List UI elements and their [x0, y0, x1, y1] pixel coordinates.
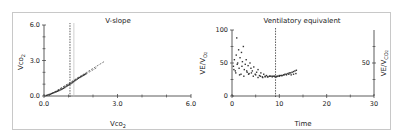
data-point	[56, 91, 57, 92]
data-point	[272, 76, 273, 77]
data-point	[80, 76, 81, 77]
x-tick-label: 30	[370, 100, 378, 108]
data-point	[294, 70, 295, 71]
data-point	[49, 94, 50, 95]
ventilatory-equivalent-chart: Ventilatory equivalent 010203005010050 T…	[199, 17, 389, 128]
data-point	[48, 94, 49, 95]
data-point	[266, 75, 267, 76]
data-point	[53, 92, 54, 93]
data-point	[262, 77, 263, 78]
data-point	[256, 72, 257, 73]
data-point	[59, 89, 60, 90]
ventilatory-equivalent-axes: 010203005010050	[216, 26, 379, 108]
data-point	[235, 70, 236, 71]
data-point	[238, 49, 239, 50]
data-point	[253, 66, 254, 67]
data-point	[248, 74, 249, 75]
data-point	[243, 46, 244, 47]
data-point	[239, 57, 240, 58]
data-point	[296, 70, 297, 71]
v-slope-axes: 0.03.06.00.03.06.0	[30, 21, 197, 108]
data-point	[249, 62, 250, 63]
data-point	[238, 68, 239, 69]
data-point	[60, 89, 61, 90]
data-point	[291, 72, 292, 73]
data-point	[47, 94, 48, 95]
data-point	[63, 88, 64, 89]
data-point	[252, 70, 253, 71]
data-point	[85, 73, 86, 74]
data-point	[288, 74, 289, 75]
data-point	[73, 81, 74, 82]
y-tick-label: 100	[216, 26, 228, 34]
data-point	[74, 80, 75, 81]
ventilatory-equivalent-left-y-axis-label: VE/VO2	[199, 51, 208, 74]
ventilatory-equivalent-title: Ventilatory equivalent	[263, 17, 340, 25]
data-point	[79, 77, 80, 78]
data-point	[255, 74, 256, 75]
data-point	[253, 76, 254, 77]
data-point	[71, 82, 72, 83]
data-point	[246, 59, 247, 60]
data-point	[67, 85, 68, 86]
data-point	[290, 72, 291, 73]
data-point	[257, 77, 258, 78]
v-slope-x-axis-label: Vco2	[110, 120, 126, 129]
y-tick-label: 0	[224, 92, 228, 100]
v-slope-reference-lines	[49, 23, 104, 97]
data-point	[293, 74, 294, 75]
data-point	[276, 76, 277, 77]
data-point	[76, 78, 77, 79]
data-point	[81, 75, 82, 76]
data-point	[267, 76, 268, 77]
right-y-tick-label: 50	[362, 59, 370, 67]
data-point	[70, 83, 71, 84]
x-tick-label: 10	[275, 100, 283, 108]
data-point	[241, 52, 242, 53]
data-point	[236, 37, 237, 38]
data-point	[269, 76, 270, 77]
data-point	[274, 76, 275, 77]
v-slope-chart: V-slope 0.03.06.00.03.06.0 Vco2 Vco2	[17, 17, 196, 129]
v-slope-title: V-slope	[105, 17, 131, 25]
data-point	[290, 74, 291, 75]
data-point	[293, 71, 294, 72]
data-point	[244, 69, 245, 70]
data-point	[54, 92, 55, 93]
data-point	[237, 64, 238, 65]
y-tick-label: 6.0	[30, 21, 40, 29]
data-point	[250, 68, 251, 69]
y-tick-label: 50	[220, 59, 228, 67]
data-point	[264, 76, 265, 77]
data-point	[247, 65, 248, 66]
data-point	[260, 76, 261, 77]
data-point	[57, 91, 58, 92]
data-point	[286, 74, 287, 75]
ventilatory-equivalent-right-y-axis-label: VE/VCO2	[380, 49, 389, 76]
data-point	[246, 70, 247, 71]
data-point	[68, 84, 69, 85]
data-point	[84, 74, 85, 75]
data-point	[240, 74, 241, 75]
y-tick-label: 3.0	[30, 57, 40, 65]
x-tick-label: 0	[230, 100, 234, 108]
data-point	[75, 79, 76, 80]
x-tick-label: 20	[323, 100, 331, 108]
data-point	[51, 93, 52, 94]
data-point	[236, 54, 237, 55]
data-point	[52, 92, 53, 93]
data-point	[251, 72, 252, 73]
v-slope-y-axis-label: Vco2	[17, 54, 26, 70]
data-point	[46, 95, 47, 96]
data-point	[243, 76, 244, 77]
data-point	[78, 78, 79, 79]
data-point	[237, 62, 238, 63]
data-point	[245, 64, 246, 65]
data-point	[235, 72, 236, 73]
figure: V-slope 0.03.06.00.03.06.0 Vco2 Vco2 Ven…	[0, 0, 402, 140]
data-point	[279, 75, 280, 76]
data-point	[234, 59, 235, 60]
x-tick-label: 0.0	[39, 100, 49, 108]
data-point	[281, 75, 282, 76]
x-tick-label: 3.0	[112, 100, 122, 108]
